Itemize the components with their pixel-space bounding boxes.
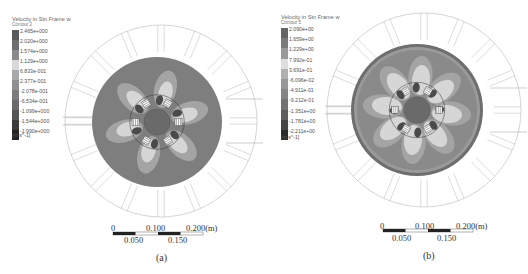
slot-line — [487, 70, 512, 80]
slot-line — [224, 81, 249, 91]
hub — [144, 109, 170, 135]
slot-line — [224, 150, 249, 160]
blade — [132, 119, 139, 126]
slot-line — [184, 31, 194, 56]
slot-line — [74, 150, 99, 160]
slot-line — [208, 172, 227, 191]
slot-line — [476, 44, 495, 63]
slot-line — [226, 87, 251, 97]
scale-label-050: 0.050 — [392, 233, 411, 243]
caption-a: (a) — [156, 252, 167, 263]
slot-line — [448, 19, 458, 44]
slot-line — [454, 173, 464, 198]
slot-line — [184, 186, 194, 211]
slot-line — [190, 184, 200, 209]
slot-line — [212, 55, 231, 74]
slot-line — [476, 157, 495, 176]
hub — [404, 97, 430, 123]
slot-line — [71, 87, 96, 97]
slot-line — [490, 134, 515, 144]
scale-label-050: 0.050 — [124, 235, 143, 245]
slot-line — [74, 81, 99, 91]
slot-line — [121, 184, 131, 209]
scale-bar-seg — [383, 229, 406, 232]
slot-line — [333, 76, 358, 86]
slot-line — [95, 172, 114, 191]
contour-plots: 0 0.100 0.200(m) 0.050 0.150 0 0.100 0.2… — [0, 0, 528, 274]
slot-line — [91, 168, 110, 187]
slot-line — [212, 168, 231, 187]
slot-line — [454, 22, 464, 47]
scale-label-150: 0.150 — [437, 233, 456, 243]
slot-line — [471, 162, 490, 181]
contour-plot-a — [63, 25, 263, 217]
slot-line — [127, 31, 137, 56]
slot-line — [91, 55, 110, 74]
scale-label-200: 0.200(m) — [186, 223, 218, 233]
slot-line — [490, 76, 515, 86]
scale-bar-b: 0 0.100 0.200(m) 0.050 0.150 — [380, 221, 488, 243]
slot-line — [71, 144, 96, 154]
blade — [175, 119, 182, 126]
slot-line — [358, 39, 377, 58]
slot-line — [336, 70, 361, 80]
slot-line — [487, 140, 512, 150]
slot-line — [448, 176, 458, 201]
slot-line — [121, 34, 131, 59]
scale-label-150: 0.150 — [168, 235, 187, 245]
slot-line — [471, 39, 490, 58]
slot-line — [95, 51, 114, 70]
slot-line — [353, 44, 372, 63]
slot-line — [353, 157, 372, 176]
scale-label-100: 0.100 — [146, 223, 165, 233]
slot-line — [384, 22, 394, 47]
slot-line — [190, 34, 200, 59]
slot-line — [390, 19, 400, 44]
slot-line — [127, 186, 137, 211]
slot-line — [358, 162, 377, 181]
slot-line — [226, 144, 251, 154]
scale-bar-seg — [428, 229, 451, 232]
slot-line — [384, 173, 394, 198]
contour-plot-b — [325, 13, 527, 207]
caption-b: (b) — [423, 250, 435, 261]
slot-line — [333, 134, 358, 144]
scale-bar-a: 0 0.100 0.200(m) 0.050 0.150 — [111, 223, 218, 245]
slot-line — [390, 176, 400, 201]
slot-line — [336, 140, 361, 150]
blade — [435, 107, 442, 114]
slot-line — [208, 51, 227, 70]
scale-label-0: 0 — [111, 223, 115, 233]
blade — [392, 107, 399, 114]
